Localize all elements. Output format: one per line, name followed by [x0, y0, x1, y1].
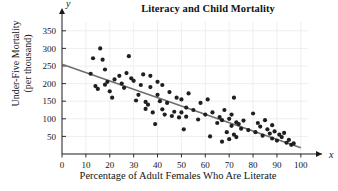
svg-text:20: 20: [105, 160, 115, 170]
svg-text:10: 10: [81, 160, 91, 170]
svg-text:350: 350: [43, 26, 57, 36]
axis-lines: [59, 8, 322, 157]
svg-text:y: y: [65, 0, 71, 9]
svg-text:50: 50: [47, 132, 57, 142]
chart-figure: Literacy and Child Mortality Under-Five …: [0, 0, 338, 191]
scatter-plot: 0102030405060708090100501001502002503003…: [0, 0, 338, 191]
svg-text:100: 100: [294, 160, 308, 170]
svg-text:200: 200: [43, 79, 57, 89]
svg-text:30: 30: [129, 160, 139, 170]
svg-text:0: 0: [60, 160, 65, 170]
svg-text:300: 300: [43, 44, 57, 54]
svg-text:x: x: [328, 149, 334, 160]
svg-text:60: 60: [201, 160, 211, 170]
data-points: [89, 46, 296, 147]
svg-text:250: 250: [43, 61, 57, 71]
svg-text:70: 70: [225, 160, 235, 170]
svg-text:80: 80: [249, 160, 259, 170]
svg-text:90: 90: [272, 160, 282, 170]
svg-text:150: 150: [43, 96, 57, 106]
svg-text:50: 50: [177, 160, 187, 170]
svg-text:100: 100: [43, 114, 57, 124]
svg-text:40: 40: [153, 160, 163, 170]
